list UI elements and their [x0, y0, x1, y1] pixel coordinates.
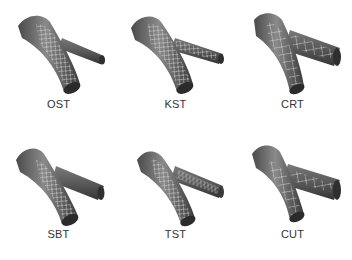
panel-crt: CRT — [234, 0, 351, 130]
panel-label-tst: TST — [117, 228, 234, 240]
panel-label-cut: CUT — [234, 228, 351, 240]
panel-label-ost: OST — [0, 98, 117, 110]
panel-kst: KST — [117, 0, 234, 130]
panel-sbt: SBT — [0, 130, 117, 260]
panel-label-sbt: SBT — [0, 228, 117, 240]
panel-label-kst: KST — [117, 98, 234, 110]
panel-label-crt: CRT — [234, 98, 351, 110]
panel-tst: TST — [117, 130, 234, 260]
panel-ost: OST — [0, 0, 117, 130]
panel-cut: CUT — [234, 130, 351, 260]
